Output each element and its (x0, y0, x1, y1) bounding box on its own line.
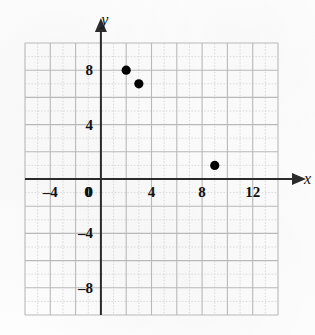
x-tick-label: 8 (198, 184, 206, 200)
x-tick-label: –4 (42, 184, 59, 200)
y-tick-label: 8 (85, 62, 93, 78)
x-tick-label: 12 (245, 184, 260, 200)
y-tick-label: –8 (77, 280, 93, 296)
scatter-plot-svg: –404812 840–4–8 x y (0, 0, 315, 335)
y-axis-label: y (99, 11, 109, 29)
y-tick-label: 0 (85, 184, 93, 200)
data-point (210, 161, 219, 170)
y-tick-label: –4 (77, 225, 94, 241)
data-point (134, 79, 143, 88)
data-point (122, 66, 131, 75)
x-axis-label: x (303, 170, 311, 187)
data-point-group (122, 66, 220, 170)
x-tick-label: 4 (148, 184, 156, 200)
axes (25, 30, 294, 315)
y-tick-label: 4 (85, 117, 93, 133)
coordinate-plane-figure: –404812 840–4–8 x y (0, 0, 315, 335)
